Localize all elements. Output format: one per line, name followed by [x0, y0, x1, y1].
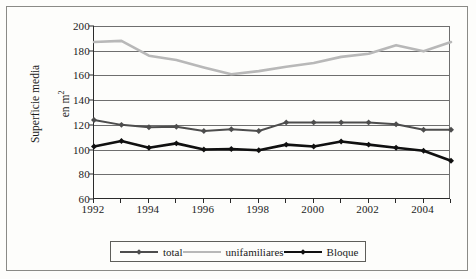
data-point-Bloque-1998 — [256, 147, 262, 153]
plot-area — [93, 26, 450, 199]
data-point-total-1993 — [118, 122, 124, 128]
x-tick-label-1996: 1996 — [191, 203, 214, 215]
data-point-Bloque-1995 — [173, 140, 179, 146]
y-tick-label-140: 140 — [73, 95, 90, 106]
line-chart-figure: Superficie media en m2 20018016014012010… — [0, 0, 476, 279]
x-tick-1997 — [230, 199, 231, 203]
x-tick-label-1994: 1994 — [137, 203, 160, 215]
data-point-total-1997 — [228, 126, 234, 132]
y-tick-label-200: 200 — [73, 21, 90, 32]
y-axis-labels: 2001801601401201008060 — [58, 26, 90, 199]
data-point-Bloque-1997 — [228, 146, 234, 152]
data-point-Bloque-1996 — [201, 147, 207, 153]
series-layer — [94, 26, 451, 199]
data-point-total-1995 — [173, 124, 179, 130]
data-point-Bloque-1994 — [146, 145, 152, 151]
legend-label-total: total — [163, 246, 183, 258]
data-point-Bloque-2003 — [393, 145, 399, 151]
chart-page: Superficie media en m2 20018016014012010… — [0, 0, 476, 279]
x-tick-1999 — [285, 199, 286, 203]
data-point-Bloque-1993 — [118, 138, 124, 144]
chart-legend: totalunifamiliaresBloque — [110, 241, 366, 262]
y-tick-label-100: 100 — [73, 144, 90, 155]
y-axis-title-line1: Superficie media — [29, 65, 41, 143]
data-point-total-1996 — [201, 128, 207, 134]
data-point-Bloque-2001 — [338, 139, 344, 145]
y-tick-label-120: 120 — [73, 119, 90, 130]
series-line-unifamiliares — [94, 41, 451, 74]
legend-line-unifamiliares — [183, 251, 221, 253]
legend-label-unifamiliares: unifamiliares — [226, 246, 284, 258]
x-tick-label-1992: 1992 — [82, 203, 105, 215]
legend-item-Bloque[interactable]: Bloque — [284, 246, 359, 258]
x-tick-2001 — [340, 199, 341, 203]
legend-key-Bloque-icon — [284, 247, 322, 257]
data-point-total-1998 — [256, 128, 262, 134]
x-tick-1995 — [175, 199, 176, 203]
x-tick-label-2004: 2004 — [411, 203, 434, 215]
legend-item-unifamiliares[interactable]: unifamiliares — [183, 246, 284, 258]
data-point-Bloque-2002 — [366, 142, 372, 148]
data-point-Bloque-1999 — [283, 142, 289, 148]
x-tick-label-1998: 1998 — [246, 203, 269, 215]
data-point-total-2000 — [311, 119, 317, 125]
y-tick-label-180: 180 — [73, 45, 90, 56]
x-tick-label-2000: 2000 — [301, 203, 324, 215]
data-point-total-2004 — [421, 127, 427, 133]
y-tick-label-160: 160 — [73, 70, 90, 81]
data-point-total-1999 — [283, 119, 289, 125]
series-line-Bloque — [94, 141, 451, 161]
data-point-Bloque-2000 — [311, 144, 317, 150]
data-point-total-2005 — [448, 127, 454, 133]
legend-label-Bloque: Bloque — [327, 246, 359, 258]
data-point-total-1994 — [146, 124, 152, 130]
legend-item-total[interactable]: total — [120, 246, 183, 258]
x-tick-label-2002: 2002 — [356, 203, 379, 215]
x-tick-2005 — [450, 199, 451, 203]
data-point-total-2003 — [393, 121, 399, 127]
legend-key-total-icon — [120, 247, 158, 257]
x-tick-1993 — [120, 199, 121, 203]
data-point-total-2002 — [366, 119, 372, 125]
legend-key-unifamiliares-icon — [183, 247, 221, 257]
data-point-total-1992 — [91, 117, 97, 123]
data-point-total-2001 — [338, 119, 344, 125]
x-tick-2003 — [395, 199, 396, 203]
